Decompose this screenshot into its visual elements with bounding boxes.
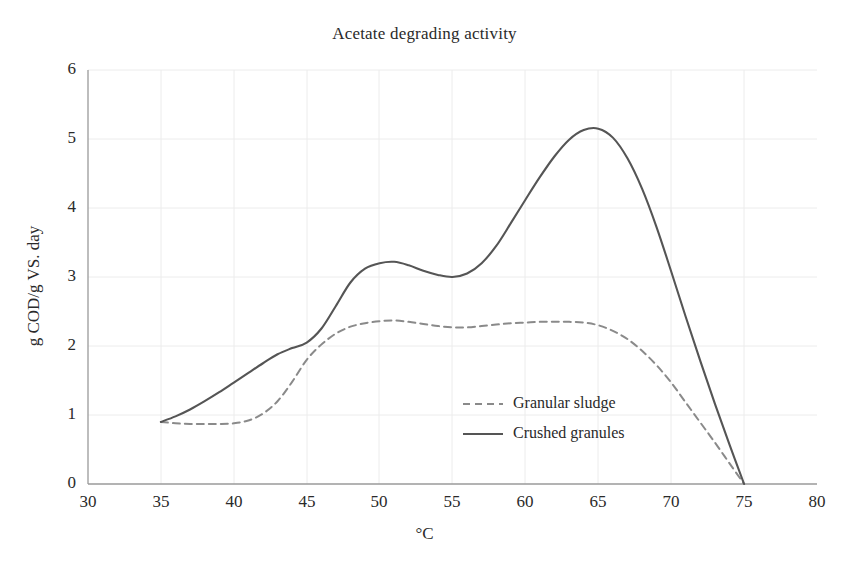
chart-figure: Acetate degrading activity g COD/g VS. d… xyxy=(0,0,849,564)
plot-canvas xyxy=(0,0,849,564)
legend-label-granular-sludge: Granular sludge xyxy=(513,394,616,412)
legend-label-crushed-granules: Crushed granules xyxy=(513,424,625,442)
